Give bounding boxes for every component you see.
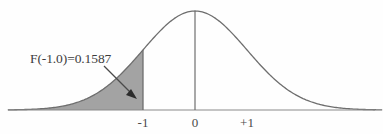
tick-label-minus-one: -1 — [123, 116, 163, 129]
normal-distribution-figure: F(-1.0)=0.1587 -1 0 +1 — [0, 0, 383, 134]
tick-label-plus-one: +1 — [227, 116, 267, 129]
distribution-plot — [0, 0, 383, 134]
annotation-label: F(-1.0)=0.1587 — [30, 52, 111, 67]
tick-label-zero: 0 — [175, 116, 215, 129]
